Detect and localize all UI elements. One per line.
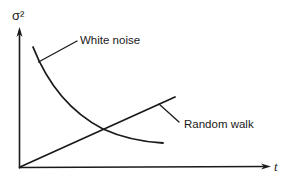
white-noise-curve (33, 47, 163, 143)
x-axis-label: t (274, 159, 278, 174)
random-walk-label: Random walk (184, 118, 254, 130)
y-axis-label: σ² (12, 8, 25, 23)
y-axis (17, 27, 23, 168)
variance-vs-time-diagram: σ² t White noise Random walk (0, 0, 291, 177)
random-walk-leader-line (159, 104, 179, 122)
white-noise-label: White noise (80, 34, 140, 46)
random-walk-line (20, 97, 175, 167)
x-axis (20, 164, 272, 170)
white-noise-leader-line (39, 41, 78, 62)
